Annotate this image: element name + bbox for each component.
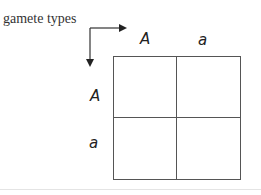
punnett-square-grid [113,56,241,180]
column-gamete-2: a [198,33,207,48]
row-gamete-2: a [89,136,98,151]
divider [0,189,261,190]
punnett-cell [114,57,177,118]
down-arrow-icon [86,28,94,67]
right-arrow-icon [90,24,127,32]
punnett-cell [177,118,240,179]
column-gamete-1: A [140,32,150,47]
row-gamete-1: A [90,89,100,104]
punnett-cell [177,57,240,118]
punnett-cell [114,118,177,179]
